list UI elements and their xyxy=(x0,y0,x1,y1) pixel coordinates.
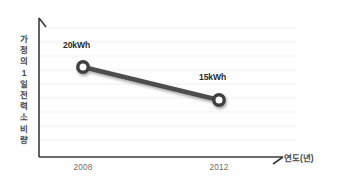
data-point-label-2008: 20kWh xyxy=(63,40,90,50)
data-point-label-2012: 15kWh xyxy=(199,72,226,82)
data-point-marker-2012[interactable] xyxy=(214,95,224,105)
y-axis xyxy=(39,18,46,157)
y-axis-arrow-icon xyxy=(39,18,46,27)
x-tick-label-2012: 2012 xyxy=(209,163,228,172)
chart-container: 가 정 의 1 일 전 력 소 비 량 xyxy=(0,0,337,188)
data-point-marker-2008[interactable] xyxy=(78,62,88,72)
x-axis-title: 연도(년) xyxy=(284,151,314,163)
x-tick-label-2008: 2008 xyxy=(73,163,92,172)
x-axis-arrow-icon xyxy=(273,157,283,164)
